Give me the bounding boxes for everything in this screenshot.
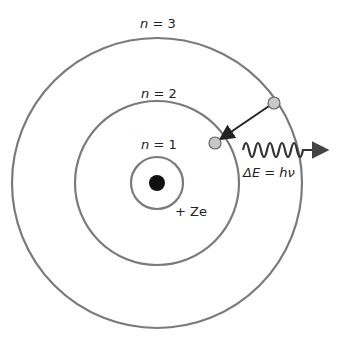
electron-n3 bbox=[268, 97, 280, 109]
transition-arrow bbox=[222, 104, 272, 138]
nucleus bbox=[149, 175, 165, 191]
label-n3: n = 3 bbox=[140, 16, 176, 31]
photon-wave bbox=[243, 143, 325, 157]
label-n2: n = 2 bbox=[141, 86, 177, 101]
label-n1: n = 1 bbox=[141, 137, 177, 152]
electron-n2 bbox=[209, 137, 221, 149]
label-nucleus-charge: + Ze bbox=[175, 204, 207, 219]
bohr-diagram bbox=[0, 0, 363, 341]
label-energy: ΔE = hν bbox=[243, 165, 295, 180]
